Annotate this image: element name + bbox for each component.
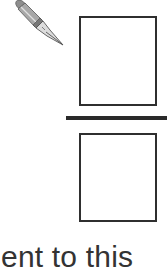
fraction-bar [66, 116, 167, 120]
numerator-box[interactable] [79, 16, 157, 106]
denominator-box[interactable] [79, 133, 157, 222]
instruction-text: ent to this [1, 240, 133, 273]
fountain-pen-icon [12, 0, 64, 48]
